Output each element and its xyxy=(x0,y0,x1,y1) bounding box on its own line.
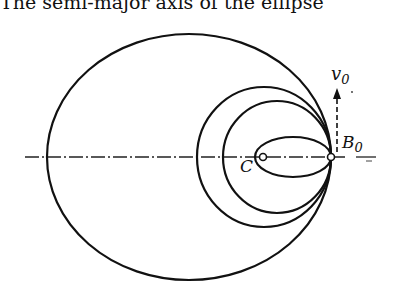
stray-mark xyxy=(351,91,353,93)
point-b0 xyxy=(328,154,335,161)
center-point-c xyxy=(260,154,267,161)
velocity-label: v0 xyxy=(331,63,349,87)
point-b0-label: B0 xyxy=(341,132,363,155)
orbit-diagram: v0 B0 C xyxy=(0,0,402,300)
arrowhead-up-icon xyxy=(333,88,341,99)
center-c-label: C xyxy=(240,156,253,176)
